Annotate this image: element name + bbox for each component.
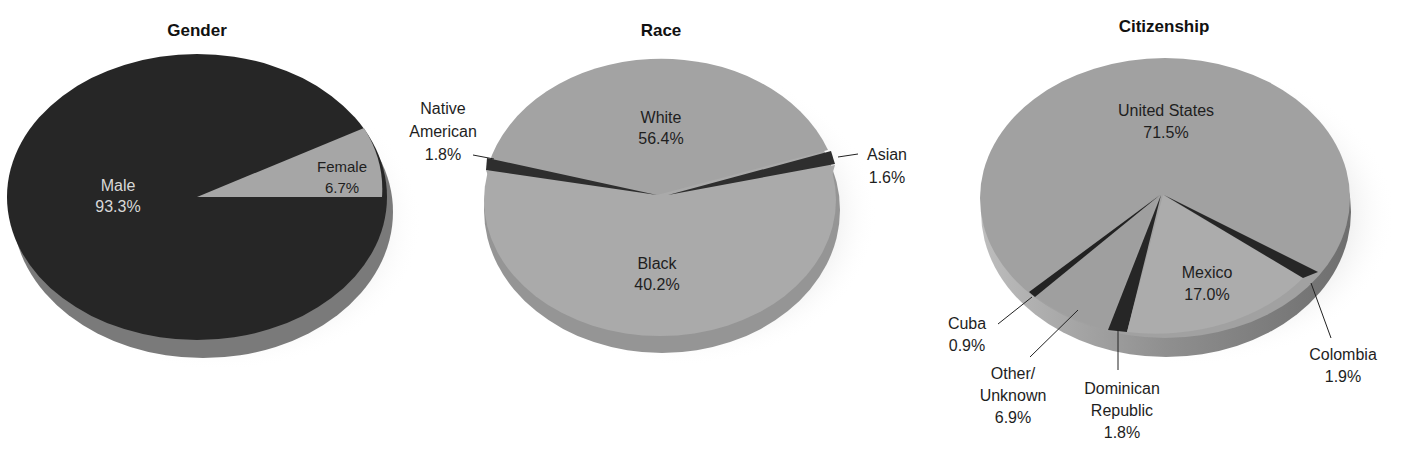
gender-label-male-value: 93.3%: [95, 198, 140, 215]
race-chart: Race White 56.4% Black 40.2% Native Amer…: [409, 21, 907, 365]
gender-label-female-name: Female: [317, 158, 367, 175]
citizenship-label-mexico-name: Mexico: [1182, 264, 1233, 281]
citizenship-label-dr-value: 1.8%: [1104, 424, 1140, 441]
gender-title: Gender: [167, 21, 227, 40]
citizenship-label-us-value: 71.5%: [1143, 124, 1188, 141]
citizenship-leader-cuba: [998, 297, 1032, 324]
race-label-white-name: White: [641, 109, 682, 126]
citizenship-label-other-line2: Unknown: [980, 387, 1047, 404]
race-leader-native: [473, 155, 494, 159]
citizenship-label-colombia-value: 1.9%: [1325, 368, 1361, 385]
race-label-black-value: 40.2%: [634, 276, 679, 293]
citizenship-label-colombia-name: Colombia: [1309, 346, 1377, 363]
race-label-native-value: 1.8%: [425, 146, 461, 163]
race-title: Race: [641, 21, 682, 40]
race-label-white-value: 56.4%: [638, 130, 683, 147]
gender-label-male-name: Male: [101, 177, 136, 194]
charts-canvas: Gender Male 93.3% Female 6.7% Race White…: [0, 0, 1401, 459]
gender-chart: Gender Male 93.3% Female 6.7%: [7, 21, 422, 370]
citizenship-label-cuba-name: Cuba: [948, 315, 986, 332]
race-label-asian-name: Asian: [867, 146, 907, 163]
race-label-native-line1: Native: [420, 100, 465, 117]
citizenship-label-mexico-value: 17.0%: [1184, 286, 1229, 303]
citizenship-label-other-line1: Other/: [991, 365, 1036, 382]
race-label-native-line2: American: [409, 123, 477, 140]
citizenship-label-us-name: United States: [1118, 102, 1214, 119]
citizenship-label-other-value: 6.9%: [995, 409, 1031, 426]
race-label-black-name: Black: [637, 255, 677, 272]
citizenship-chart: Citizenship United States 71.5% Mexico 1…: [948, 17, 1395, 441]
citizenship-label-dr-line2: Republic: [1091, 402, 1153, 419]
race-label-asian-value: 1.6%: [869, 169, 905, 186]
citizenship-label-cuba-value: 0.9%: [949, 337, 985, 354]
citizenship-label-dr-line1: Dominican: [1084, 380, 1160, 397]
citizenship-title: Citizenship: [1119, 17, 1210, 36]
gender-label-female-value: 6.7%: [325, 179, 359, 196]
